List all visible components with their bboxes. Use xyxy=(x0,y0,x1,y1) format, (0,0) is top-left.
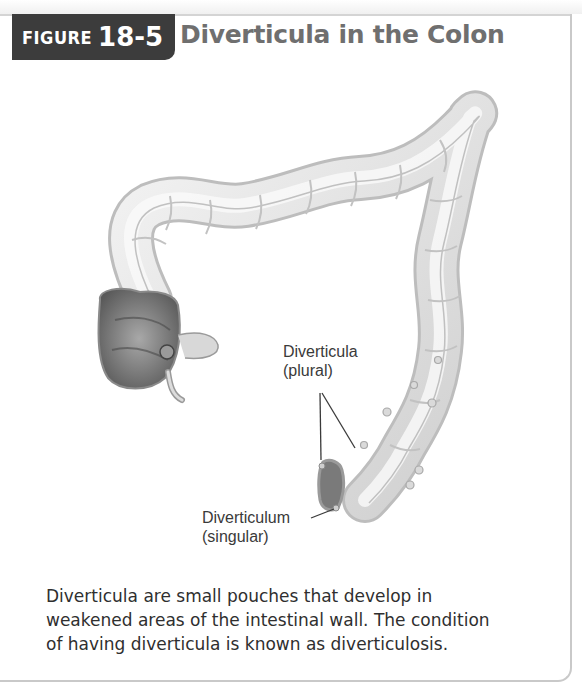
label-diverticulum-singular: Diverticulum (singular) xyxy=(202,508,290,546)
top-strip xyxy=(0,0,582,14)
figure-badge-word: FIGURE xyxy=(22,27,92,48)
figure-badge: FIGURE 18-5 xyxy=(12,14,175,60)
label-diverticulum: Diverticulum xyxy=(202,508,290,527)
figure-header: FIGURE 18-5 Diverticula in the Colon xyxy=(0,14,572,60)
caption-line-1: Diverticula are small pouches that devel… xyxy=(46,584,516,608)
figure-caption: Diverticula are small pouches that devel… xyxy=(46,584,516,656)
label-plural: (plural) xyxy=(283,361,358,380)
label-singular: (singular) xyxy=(202,527,290,546)
cecum-cutaway xyxy=(98,289,218,400)
sigmoid-cutaway xyxy=(319,460,344,511)
label-diverticula-plural: Diverticula (plural) xyxy=(283,342,358,380)
colon-drawing xyxy=(0,60,572,580)
label-diverticula: Diverticula xyxy=(283,342,358,361)
colon-illustration: Diverticula (plural) Diverticulum (singu… xyxy=(0,60,572,580)
colon-tube xyxy=(131,113,475,500)
leader-plural-left xyxy=(320,393,321,460)
leader-plural-right xyxy=(322,393,355,448)
figure-title: Diverticula in the Colon xyxy=(180,20,505,49)
figure-number: 18-5 xyxy=(98,22,163,52)
caption-line-3: of having diverticula is known as divert… xyxy=(46,632,516,656)
leader-singular xyxy=(311,509,334,518)
caption-line-2: weakened areas of the intestinal wall. T… xyxy=(46,608,516,632)
